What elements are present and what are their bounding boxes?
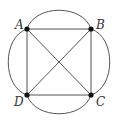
curved-edge-b-c	[91, 29, 110, 95]
label-d: D	[13, 95, 24, 109]
curved-edge-d-a	[8, 29, 27, 95]
vertex-d	[24, 92, 29, 97]
vertex-c	[88, 92, 93, 97]
vertex-b	[88, 26, 93, 31]
curved-edge-c-d	[27, 95, 91, 114]
graph-diagram: A B C D	[0, 0, 117, 120]
label-a: A	[14, 18, 24, 32]
label-c: C	[96, 95, 105, 109]
vertex-a	[24, 26, 29, 31]
curved-edge-a-b	[27, 10, 91, 29]
label-b: B	[95, 18, 105, 32]
